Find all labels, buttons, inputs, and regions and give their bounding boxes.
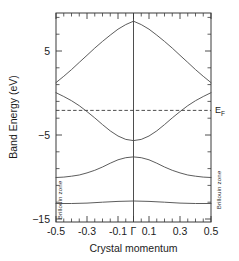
- x-tick-label-2: -0.1: [109, 225, 127, 237]
- y-axis-title: Band Energy (eV): [7, 75, 19, 158]
- y-tick-label-0: 5: [44, 45, 50, 57]
- brillouin-zone-label-right: Brillouin zone: [215, 170, 222, 209]
- x-tick-label-0: -0.5: [47, 225, 65, 237]
- band-structure-plot: 5 −5 −15 -0.5 -0.3 -0.1 Γ 0.1 0.3 0.5 Cr…: [0, 0, 239, 261]
- x-tick-label-6: 0.5: [204, 225, 219, 237]
- y-tick-label-1: −5: [38, 129, 50, 141]
- y-tick-label-2: −15: [32, 213, 50, 225]
- band-structure-figure: 5 −5 −15 -0.5 -0.3 -0.1 Γ 0.1 0.3 0.5 Cr…: [0, 0, 239, 261]
- x-tick-label-4: 0.1: [142, 225, 157, 237]
- x-axis-title: Crystal momentum: [89, 242, 177, 254]
- brillouin-zone-label-left: Brillouin zone: [56, 180, 63, 219]
- x-tick-label-gamma: Γ: [131, 225, 137, 237]
- x-tick-label-5: 0.3: [173, 225, 188, 237]
- fermi-level-sublabel: F: [221, 110, 225, 117]
- x-tick-label-1: -0.3: [78, 225, 96, 237]
